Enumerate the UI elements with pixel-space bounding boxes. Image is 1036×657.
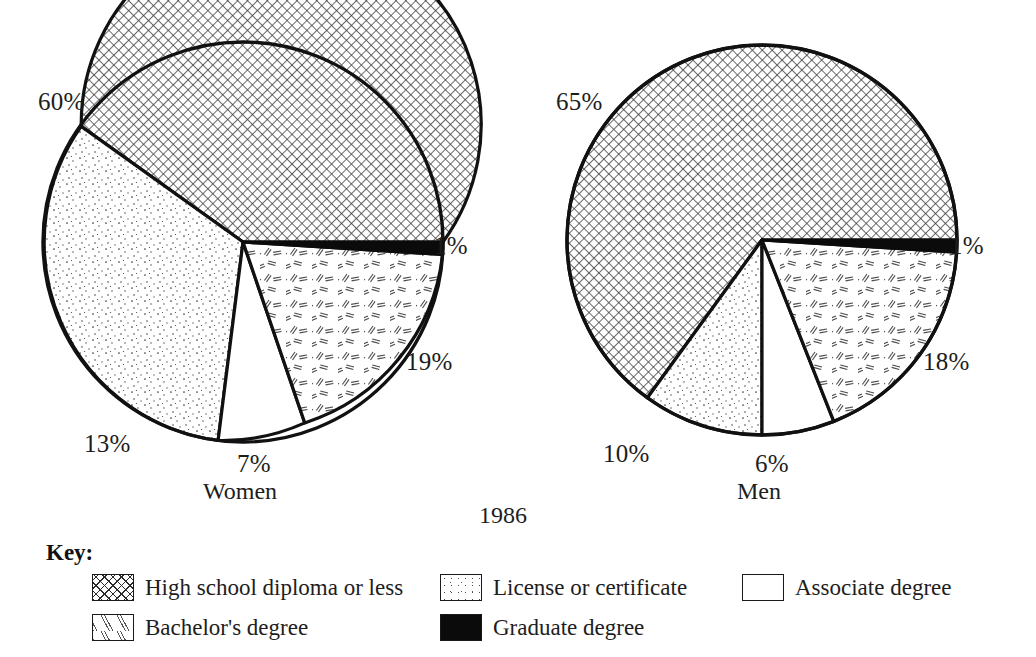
- legend-item-high-school-diploma-or-less[interactable]: High school diploma or less: [92, 574, 403, 601]
- legend-swatch-crosshatch-icon: [92, 574, 134, 601]
- legend-label: Graduate degree: [493, 616, 644, 639]
- pct-label-women-high-school: 60%: [38, 88, 84, 116]
- legend-swatch-plain-icon: [742, 574, 784, 601]
- pct-label-men-bachelors: 18%: [923, 348, 969, 376]
- pct-label-men-graduate: 1%: [950, 232, 984, 260]
- pie-men: [567, 45, 957, 435]
- legend-swatch-solid-black-icon: [440, 614, 482, 641]
- legend-item-bachelors-degree[interactable]: Bachelor's degree: [92, 614, 308, 641]
- pct-label-women-license: 13%: [84, 430, 130, 458]
- pct-label-men-high-school: 65%: [556, 88, 602, 116]
- legend-label: High school diploma or less: [145, 576, 403, 599]
- legend-label: Associate degree: [795, 576, 951, 599]
- figure-canvas: 60% 13% 7% 19% 1% Women 65% 10% 6% 18% 1…: [0, 0, 1036, 657]
- legend-item-associate-degree[interactable]: Associate degree: [742, 574, 951, 601]
- pct-label-men-license: 10%: [603, 440, 649, 468]
- series-label-women: Women: [203, 478, 277, 505]
- legend-label: License or certificate: [493, 576, 687, 599]
- legend-item-license-or-certificate[interactable]: License or certificate: [440, 574, 687, 601]
- legend-swatch-dashes-icon: [92, 614, 134, 641]
- pct-label-women-graduate: 1%: [434, 232, 468, 260]
- legend-item-graduate-degree[interactable]: Graduate degree: [440, 614, 644, 641]
- legend: Key: High school diploma or less License…: [0, 528, 1036, 657]
- legend-swatch-stipple-icon: [440, 574, 482, 601]
- year-label: 1986: [479, 502, 527, 529]
- series-label-men: Men: [737, 478, 781, 505]
- legend-label: Bachelor's degree: [145, 616, 308, 639]
- legend-title: Key:: [46, 540, 93, 566]
- pct-label-men-associate: 6%: [755, 450, 789, 478]
- pct-label-women-bachelors: 19%: [406, 348, 452, 376]
- pct-label-women-associate: 7%: [237, 450, 271, 478]
